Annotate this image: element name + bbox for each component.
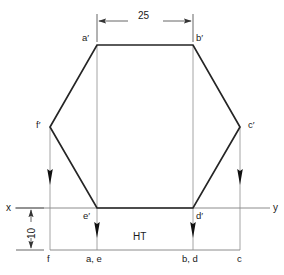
point-label-c: c [237, 254, 242, 264]
height-dimension-label: 10 [27, 228, 37, 239]
hexagon-front-view [50, 45, 240, 208]
projector-arrow-a-e [94, 222, 100, 238]
x-axis-label: x [6, 203, 11, 213]
drawing-canvas: 25 10 x y HT a′ b′ c′ d′ e′ f′ f a, e b,… [0, 0, 284, 275]
vertex-label-a-prime: a′ [82, 33, 89, 43]
vertex-label-d-prime: d′ [196, 211, 203, 221]
projector-arrow-f [47, 169, 53, 185]
vertex-label-b-prime: b′ [196, 33, 203, 43]
point-label-f: f [47, 254, 50, 264]
width-dimension-label: 25 [138, 11, 149, 21]
point-label-b-d: b, d [182, 254, 198, 264]
projector-arrow-c [237, 169, 243, 185]
vertex-label-c-prime: c′ [248, 120, 255, 130]
projector-arrowheads [47, 169, 243, 238]
vertex-label-f-prime: f′ [36, 120, 40, 130]
ht-trace-label: HT [133, 232, 146, 242]
vertex-label-e-prime: e′ [83, 211, 90, 221]
point-label-a-e: a, e [86, 254, 102, 264]
projector-arrow-b-d [190, 222, 196, 238]
y-axis-label: y [273, 203, 278, 213]
